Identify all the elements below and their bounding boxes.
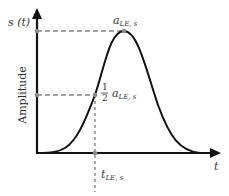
x-axis-label: t <box>214 160 219 173</box>
half-label-numerator: 1 <box>102 82 108 92</box>
peak-axis-marker <box>35 29 40 34</box>
half-axis-marker <box>35 93 40 98</box>
half-label-denominator: 2 <box>102 93 108 103</box>
peak-label: aLE, s <box>113 14 138 28</box>
y-axis-title: Amplitude <box>16 66 29 125</box>
pulse-diagram: s (t) Amplitude t aLE, s 1 2 aLE, s tLE,… <box>0 0 229 196</box>
time-label: tLE, s <box>101 168 124 182</box>
pulse-curve <box>37 31 212 153</box>
time-axis-marker <box>93 151 98 156</box>
peak-marker <box>122 29 127 34</box>
y-axis-label: s (t) <box>8 16 30 29</box>
half-marker <box>93 93 98 98</box>
x-axis-arrow-icon <box>210 148 221 158</box>
half-label: aLE, s <box>112 87 137 101</box>
y-axis-arrow-icon <box>32 8 42 19</box>
